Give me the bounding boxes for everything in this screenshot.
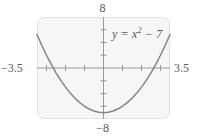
equation-minus: −: [144, 27, 153, 41]
equation-exponent: 2: [137, 26, 141, 35]
y-axis-max-label: 8: [1, 2, 203, 14]
equation-annotation: y = x2 − 7: [112, 28, 162, 40]
y-axis-min-label: −8: [1, 122, 203, 134]
x-axis-min-label: −3.5: [1, 62, 23, 74]
equation-equals: =: [120, 27, 129, 41]
equation-lhs: y: [112, 27, 117, 41]
equation-constant: 7: [156, 27, 162, 41]
x-axis-max-label: 3.5: [174, 62, 189, 74]
graph-figure: 8 −8 −3.5 3.5 y = x2 − 7: [0, 0, 203, 138]
